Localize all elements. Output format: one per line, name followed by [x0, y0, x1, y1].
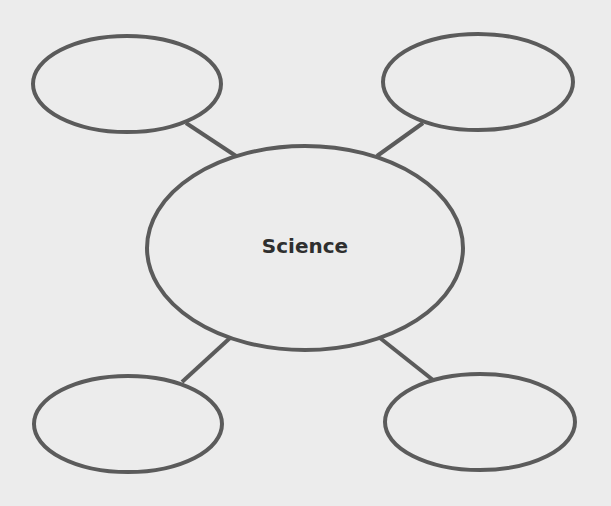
- connector-top-right: [377, 123, 423, 156]
- bubble-top-right[interactable]: [383, 34, 573, 130]
- connector-bottom-left: [182, 338, 230, 382]
- center-topic-label: Science: [205, 234, 405, 258]
- bubble-bottom-right[interactable]: [385, 374, 575, 470]
- connector-top-left: [186, 123, 236, 156]
- connector-bottom-right: [380, 338, 433, 380]
- bubble-map-diagram: Science: [0, 0, 611, 506]
- bubble-bottom-left[interactable]: [34, 376, 222, 472]
- bubble-top-left[interactable]: [33, 36, 221, 132]
